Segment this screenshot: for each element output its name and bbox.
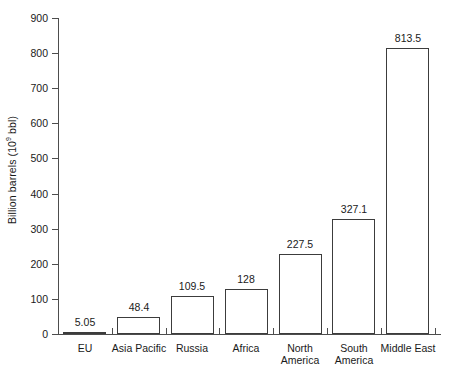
- bar[interactable]: [279, 254, 322, 334]
- y-axis-tick-label: 400: [4, 189, 48, 200]
- y-axis-tick: [52, 53, 59, 54]
- y-axis-tick-label: 100: [4, 294, 48, 305]
- bar-value-label: 327.1: [319, 204, 389, 215]
- y-axis-tick-label: 200: [4, 259, 48, 270]
- x-axis-tick: [435, 328, 436, 335]
- y-axis-tick: [52, 123, 59, 124]
- bar[interactable]: [386, 48, 429, 334]
- y-axis-tick-label: 0: [4, 329, 48, 340]
- y-axis-title-exponent: 9: [6, 137, 13, 141]
- bar[interactable]: [332, 219, 375, 334]
- y-axis-tick-label: 600: [4, 118, 48, 129]
- bar-value-label: 5.05: [50, 317, 120, 328]
- bar[interactable]: [117, 317, 160, 334]
- y-axis-tick: [52, 158, 59, 159]
- y-axis-tick-label: 800: [4, 48, 48, 59]
- y-axis-tick-label: 900: [4, 13, 48, 24]
- bar-value-label: 48.4: [104, 302, 174, 313]
- x-axis-tick: [219, 328, 220, 335]
- y-axis-tick: [52, 299, 59, 300]
- y-axis-tick: [52, 18, 59, 19]
- y-axis-line: [58, 18, 59, 335]
- bar-value-label: 128: [211, 274, 281, 285]
- y-axis-tick-label: 700: [4, 83, 48, 94]
- x-axis-category-label-line: America: [318, 354, 390, 366]
- x-axis-category-label: Middle East: [372, 342, 444, 354]
- bar-value-label: 227.5: [265, 239, 335, 250]
- bar[interactable]: [171, 296, 214, 334]
- bar-value-label: 813.5: [373, 33, 443, 44]
- y-axis-tick-label: 300: [4, 224, 48, 235]
- x-axis-tick: [381, 328, 382, 335]
- y-axis-tick: [52, 88, 59, 89]
- y-axis-tick: [52, 194, 59, 195]
- x-axis-category-label-line: Middle East: [372, 342, 444, 354]
- bar-chart-figure: Billion barrels (109 bbl) 01002003004005…: [0, 0, 456, 379]
- x-axis-tick: [58, 328, 59, 335]
- x-axis-line: [58, 334, 441, 335]
- x-axis-tick: [327, 328, 328, 335]
- bar[interactable]: [225, 289, 268, 334]
- x-axis-tick: [273, 328, 274, 335]
- y-axis-tick: [52, 229, 59, 230]
- x-axis-tick: [166, 328, 167, 335]
- y-axis-tick: [52, 264, 59, 265]
- bar[interactable]: [63, 332, 106, 334]
- x-axis-tick: [112, 328, 113, 335]
- y-axis-tick-label: 500: [4, 153, 48, 164]
